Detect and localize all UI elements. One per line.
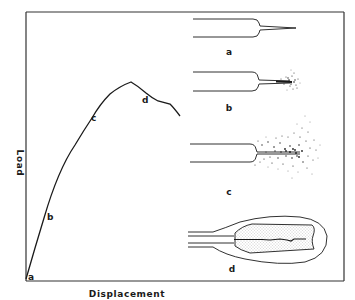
stage-c-diagram: c (190, 116, 320, 197)
curve-point-b: b (47, 212, 54, 222)
x-axis-label: Displacement (89, 289, 165, 299)
stage-a-diagram: a (193, 19, 296, 57)
y-axis-label: Load (15, 150, 25, 177)
load-displacement-figure: Load Displacement a b c d a b (0, 0, 355, 300)
stage-b-diagram: b (193, 70, 300, 113)
stage-d-diagram: d (188, 216, 327, 274)
damage-zone-large (255, 116, 321, 179)
curve-point-d: d (142, 95, 148, 105)
stage-d-label: d (229, 264, 235, 274)
curve-point-c: c (91, 113, 96, 123)
load-displacement-curve (26, 82, 180, 279)
curve-point-a: a (28, 272, 34, 282)
damage-zone-small (281, 70, 301, 91)
stage-b-label: b (226, 103, 233, 113)
stage-a-label: a (226, 47, 232, 57)
stage-c-label: c (226, 187, 231, 197)
